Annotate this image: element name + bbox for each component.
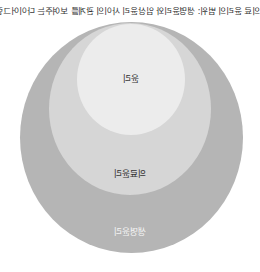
inner-circle-label: 윤리 bbox=[81, 72, 181, 85]
outer-circle-label: 생명윤리 bbox=[80, 225, 180, 238]
middle-circle-label: 의료윤리 bbox=[80, 167, 180, 180]
diagram-title: 의료 윤리의 범위: 생명윤리와 임상윤리 사이의 관계를 보여주는 다이어그램 bbox=[0, 4, 260, 16]
